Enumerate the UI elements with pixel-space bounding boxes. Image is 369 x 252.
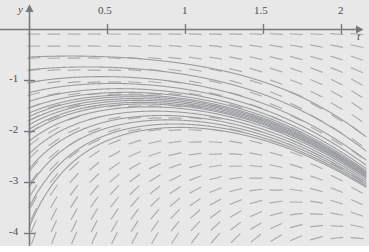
y-tick-label-1: -2 [9,124,18,135]
slope-segment [310,34,323,35]
slope-segment [108,46,121,47]
y-tick-label-3: -4 [9,226,18,237]
x-tick-label-3: 2 [338,5,344,16]
slope-segment [189,130,202,131]
x-axis-label: t [357,31,360,42]
y-tick-label-0: -1 [9,73,18,84]
plot-background [0,0,369,246]
slope-segment [128,82,141,83]
slope-field-figure: 0.5 1 1.5 2 -1 -2 -3 -4 y t [0,0,369,252]
plot-canvas [0,0,369,252]
slope-segment [270,34,283,35]
slope-segment [128,46,141,47]
slope-segment [290,34,303,35]
x-tick-label-0: 0.5 [98,5,112,16]
y-axis-label: y [18,4,23,15]
slope-segment [209,142,222,143]
slope-segment [229,34,242,35]
slope-segment [108,70,121,71]
x-tick-label-2: 1.5 [254,5,268,16]
slope-segment [249,34,262,35]
slope-segment [330,226,343,227]
y-tick-label-2: -3 [9,175,18,186]
x-tick-label-1: 1 [182,5,188,16]
slope-segment [128,106,141,107]
